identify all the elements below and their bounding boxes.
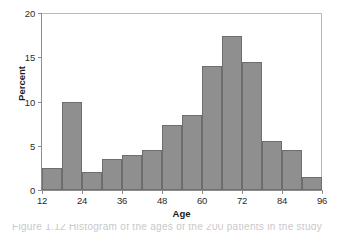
- x-axis-tick-mark: [202, 190, 203, 194]
- figure-caption-cropped: Figure 1.12 Histogram of the ages of the…: [0, 224, 338, 232]
- histogram-bar: [82, 172, 102, 190]
- histogram-bar: [142, 150, 162, 190]
- histogram-bar: [182, 115, 202, 190]
- histogram-bar: [202, 66, 222, 190]
- histogram-bar: [242, 62, 262, 190]
- x-axis-tick-mark: [42, 190, 43, 194]
- x-axis-tick-label: 96: [310, 195, 334, 206]
- x-axis-tick-label: 36: [110, 195, 134, 206]
- figure-caption-text: Figure 1.12 Histogram of the ages of the…: [12, 224, 322, 232]
- y-axis-tick-mark: [38, 146, 42, 147]
- x-axis-tick-mark: [242, 190, 243, 194]
- histogram-bar: [262, 141, 282, 190]
- x-axis-tick-mark: [162, 190, 163, 194]
- x-axis-tick-mark: [282, 190, 283, 194]
- histogram-bar: [162, 125, 182, 190]
- x-axis-title: Age: [41, 208, 322, 219]
- histogram-bar: [102, 159, 122, 190]
- x-axis-tick-label: 12: [30, 195, 54, 206]
- histogram-bar: [282, 150, 302, 190]
- x-axis-tick-label: 72: [230, 195, 254, 206]
- histogram-bar: [222, 36, 242, 190]
- x-axis-tick-label: 24: [70, 195, 94, 206]
- x-axis-tick-label: 48: [150, 195, 174, 206]
- x-axis-tick-mark: [322, 190, 323, 194]
- y-axis-tick-label: 5: [30, 141, 35, 152]
- x-axis-tick-label: 84: [270, 195, 294, 206]
- histogram-figure: 05101520 Percent 1224364860728496 Age Fi…: [0, 0, 338, 232]
- y-axis-title: Percent: [16, 54, 27, 114]
- y-axis-tick-label: 20: [25, 8, 35, 19]
- histogram-bar: [122, 155, 142, 190]
- x-axis-tick-mark: [82, 190, 83, 194]
- histogram-bar: [62, 102, 82, 191]
- x-axis-tick-mark: [122, 190, 123, 194]
- histogram-bar: [302, 177, 322, 190]
- y-axis-tick-mark: [38, 13, 42, 14]
- histogram-bar: [42, 168, 62, 190]
- y-axis-tick-mark: [38, 57, 42, 58]
- x-axis-tick-label: 60: [190, 195, 214, 206]
- bars-layer: [42, 13, 322, 190]
- y-axis-tick-mark: [38, 102, 42, 103]
